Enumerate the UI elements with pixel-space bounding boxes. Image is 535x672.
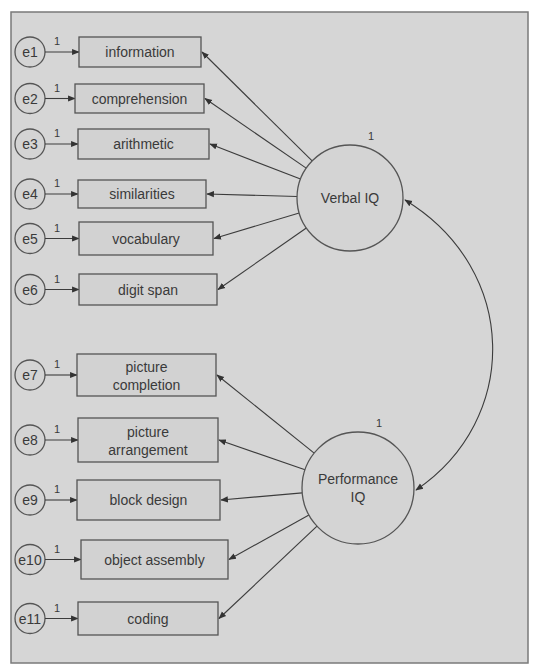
observed-label: comprehension — [92, 91, 188, 107]
observed-label: vocabulary — [112, 231, 180, 247]
error-path-label: 1 — [54, 483, 60, 495]
observed-label-line2: completion — [113, 377, 181, 393]
performance-variance-label: 1 — [376, 417, 382, 429]
observed-vocabulary[interactable]: vocabulary — [79, 222, 213, 255]
observed-label: block design — [110, 492, 188, 508]
observed-picture-arrangement[interactable]: picturearrangement — [78, 418, 218, 462]
error-label: e3 — [22, 136, 38, 152]
error-path-label: 1 — [54, 35, 60, 47]
latent-performance-label-line2: IQ — [351, 489, 366, 505]
observed-similarities[interactable]: similarities — [78, 180, 206, 208]
latent-performance-label-line1: Performance — [318, 471, 398, 487]
latent-verbal-label: Verbal IQ — [321, 190, 379, 206]
observed-label: similarities — [109, 186, 174, 202]
error-label: e9 — [22, 492, 38, 508]
error-path-label: 1 — [54, 273, 60, 285]
error-path-label: 1 — [54, 177, 60, 189]
observed-object-assembly[interactable]: object assembly — [81, 540, 228, 579]
observed-picture-completion[interactable]: picturecompletion — [77, 354, 216, 396]
observed-arithmetic[interactable]: arithmetic — [78, 129, 209, 159]
error-path-label: 1 — [54, 222, 60, 234]
error-label: e4 — [22, 186, 38, 202]
error-path-label: 1 — [54, 358, 60, 370]
error-label: e2 — [22, 91, 38, 107]
error-path-label: 1 — [54, 423, 60, 435]
error-label: e11 — [19, 611, 42, 627]
error-path-label: 1 — [54, 602, 60, 614]
verbal-variance-label: 1 — [368, 130, 374, 142]
error-path-label: 1 — [54, 543, 60, 555]
error-label: e8 — [22, 432, 38, 448]
error-label: e10 — [18, 552, 42, 568]
error-label: e5 — [22, 231, 38, 247]
error-label: e7 — [22, 367, 38, 383]
error-label: e6 — [22, 282, 38, 298]
observed-label: arithmetic — [113, 136, 174, 152]
observed-block-design[interactable]: block design — [77, 480, 220, 520]
observed-coding[interactable]: coding — [78, 602, 218, 635]
observed-label: coding — [127, 611, 168, 627]
observed-label-line2: arrangement — [108, 442, 187, 458]
observed-label-line1: picture — [127, 424, 169, 440]
observed-label: digit span — [118, 282, 178, 298]
observed-label-line1: picture — [125, 359, 167, 375]
error-path-label: 1 — [54, 82, 60, 94]
error-path-label: 1 — [54, 127, 60, 139]
observed-comprehension[interactable]: comprehension — [75, 84, 204, 113]
observed-information[interactable]: information — [79, 37, 201, 67]
observed-label: information — [105, 44, 174, 60]
error-label: e1 — [22, 44, 38, 60]
observed-label: object assembly — [104, 552, 204, 568]
observed-digit-span[interactable]: digit span — [79, 274, 217, 305]
sem-diagram: e11e21e31e41e51e61e71e81e91e101e111 info… — [0, 0, 535, 672]
